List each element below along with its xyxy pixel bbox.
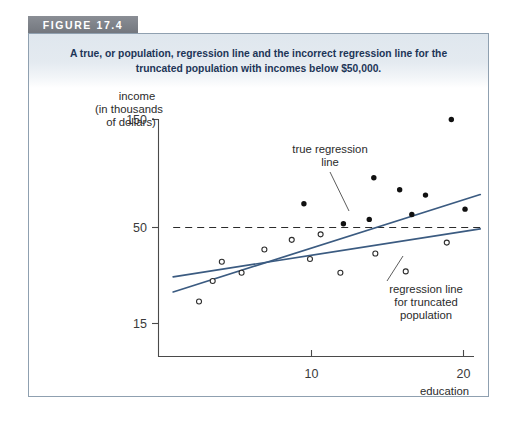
- figure-container: FIGURE 17.4 A true, or population, regre…: [0, 0, 516, 429]
- data-point: [367, 217, 372, 222]
- truncated-regression-annotation-line-1: regression line: [389, 283, 462, 295]
- data-point: [462, 206, 467, 211]
- data-point: [239, 270, 244, 275]
- data-point: [289, 237, 294, 242]
- true-regression-leader-line: [330, 172, 349, 211]
- data-point: [403, 269, 408, 274]
- truncated-regression-annotation: regression line for truncated population: [387, 256, 463, 321]
- y-axis-ticks: [152, 120, 159, 324]
- y-tick-label-50: 50: [133, 221, 147, 235]
- true-regression-line: [173, 195, 480, 292]
- y-axis-title-line-2: (in thousands: [95, 103, 163, 115]
- figure-frame: A true, or population, regression line a…: [28, 33, 489, 397]
- true-regression-annotation-line-1: true regression: [292, 143, 367, 155]
- figure-number-banner: FIGURE 17.4: [28, 16, 138, 34]
- data-point: [210, 278, 215, 283]
- x-axis-ticks: [312, 350, 464, 357]
- data-point: [397, 187, 402, 192]
- data-point: [262, 247, 267, 252]
- y-axis-title-line-1: income: [119, 90, 155, 102]
- y-tick-label-15: 15: [133, 317, 147, 331]
- y-axis-title: income (in thousands of dollars): [95, 90, 163, 128]
- data-point: [341, 221, 346, 226]
- data-point: [219, 259, 224, 264]
- data-point: [373, 251, 378, 256]
- data-point: [307, 257, 312, 262]
- data-point: [409, 212, 414, 217]
- x-axis-title-line-1: education: [420, 385, 469, 397]
- x-tick-label-10: 10: [305, 367, 319, 381]
- truncated-regression-annotation-line-2: for truncated: [394, 296, 457, 308]
- data-point: [338, 270, 343, 275]
- data-point: [371, 175, 376, 180]
- data-point: [444, 240, 449, 245]
- data-point: [301, 201, 306, 206]
- true-regression-annotation: true regression line: [292, 143, 367, 211]
- data-point: [449, 117, 454, 122]
- data-point: [423, 192, 428, 197]
- plot-svg: 150 50 15 10 20 income (in thousands of …: [29, 34, 489, 397]
- truncated-regression-line: [173, 229, 480, 277]
- data-point: [197, 299, 202, 304]
- y-axis-title-line-3: of dollars): [106, 116, 156, 128]
- above-threshold-points: [301, 117, 468, 227]
- x-axis-title: education (in years): [420, 385, 469, 397]
- truncated-regression-annotation-line-3: population: [400, 309, 452, 321]
- data-point: [318, 232, 323, 237]
- figure-number-label: FIGURE 17.4: [43, 19, 124, 31]
- x-tick-label-20: 20: [457, 367, 471, 381]
- scatter-plot: 150 50 15 10 20 income (in thousands of …: [29, 34, 489, 397]
- truncated-regression-leader-line: [387, 256, 403, 281]
- true-regression-annotation-line-2: line: [321, 156, 339, 168]
